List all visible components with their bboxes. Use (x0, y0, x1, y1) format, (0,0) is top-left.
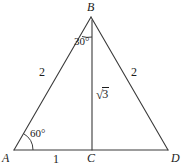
segment-label-bd: 2 (131, 66, 137, 78)
vertex-label-a: A (2, 152, 9, 164)
radicand-value: 3 (102, 87, 109, 102)
vertex-label-c: C (87, 152, 95, 164)
segment-bd (91, 17, 168, 150)
segment-label-bc-sqrt3: √3 (96, 87, 109, 102)
segment-label-ac: 1 (53, 153, 59, 165)
angle-label-a: 60° (30, 128, 45, 139)
segment-label-ab: 2 (39, 66, 45, 78)
vertex-label-d: D (171, 152, 180, 164)
geometry-canvas (0, 0, 183, 168)
angle-label-b: 30° (74, 36, 89, 47)
vertex-label-b: B (87, 1, 94, 13)
geometry-figure: B A C D 2 2 1 √3 30° 60° (0, 0, 183, 168)
